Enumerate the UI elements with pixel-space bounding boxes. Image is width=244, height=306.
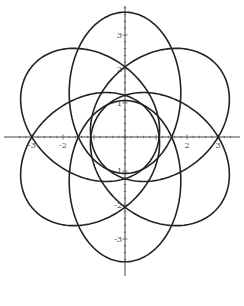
x-tick-label: -3 [28,141,36,150]
rosette-plot: -3-223-3-2-1123 [0,0,244,306]
axes [4,6,240,276]
y-tick-label: 3 [117,31,122,40]
y-tick-label: 2 [117,65,122,74]
y-tick-label: -1 [114,167,122,176]
ellipse-curve [90,48,229,181]
ellipse-curve [90,93,229,226]
x-tick-label: -2 [59,141,67,150]
ellipse-curve [21,93,160,226]
x-tick-label: 3 [215,141,220,150]
y-tick-label: -3 [114,235,122,244]
y-tick-label: 1 [117,99,122,108]
ellipse-curve [21,48,160,181]
x-tick-label: 2 [184,141,189,150]
y-tick-label: -2 [114,201,122,210]
